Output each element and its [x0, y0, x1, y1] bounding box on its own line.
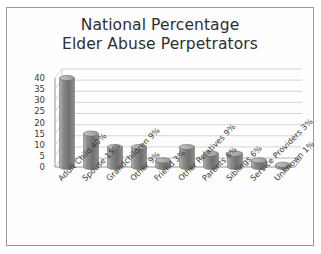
y-tick-label: 30 — [23, 96, 45, 104]
y-tick-label: 35 — [23, 85, 45, 93]
y-tick-label: 0 — [23, 163, 45, 171]
chart-frame: National Percentage Elder Abuse Perpetra… — [6, 7, 314, 246]
y-tick-label: 25 — [23, 107, 45, 115]
y-axis-labels: 4035302520151050 — [23, 72, 45, 167]
chart-svg — [7, 8, 315, 247]
y-tick-label: 20 — [23, 119, 45, 127]
y-tick-label: 10 — [23, 141, 45, 149]
y-tick-label: 40 — [23, 74, 45, 82]
y-tick-label: 15 — [23, 130, 45, 138]
y-tick-label: 5 — [23, 152, 45, 160]
plot-area — [7, 8, 315, 247]
bar-0 — [60, 75, 75, 169]
